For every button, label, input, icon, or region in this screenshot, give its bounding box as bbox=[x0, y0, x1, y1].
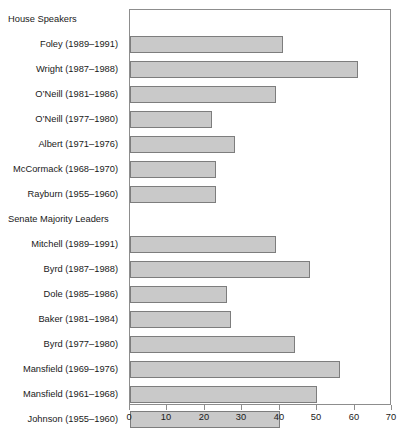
bars-container bbox=[130, 10, 390, 404]
category-label: O’Neill (1981–1986) bbox=[0, 89, 118, 100]
bar bbox=[130, 336, 295, 353]
x-axis-tick-label: 60 bbox=[339, 412, 369, 423]
bar bbox=[130, 261, 310, 278]
group-label-senate-majority-leaders: Senate Majority Leaders bbox=[8, 214, 148, 225]
category-label: Johnson (1955–1960) bbox=[0, 414, 118, 425]
bar bbox=[130, 161, 216, 178]
category-label: Dole (1985–1986) bbox=[0, 289, 118, 300]
bar bbox=[130, 61, 358, 78]
category-label: Wright (1987–1988) bbox=[0, 64, 118, 75]
bar bbox=[130, 186, 216, 203]
bar bbox=[130, 361, 340, 378]
bar bbox=[130, 36, 283, 53]
category-label: Baker (1981–1984) bbox=[0, 314, 118, 325]
bar bbox=[130, 286, 227, 303]
category-label-column: House SpeakersFoley (1989–1991)Wright (1… bbox=[0, 0, 124, 442]
bar bbox=[130, 86, 276, 103]
category-label: Rayburn (1955–1960) bbox=[0, 189, 118, 200]
x-axis-tick-label: 20 bbox=[189, 412, 219, 423]
x-axis-tick bbox=[391, 405, 392, 410]
category-label: Byrd (1977–1980) bbox=[0, 339, 118, 350]
plot-area bbox=[129, 9, 391, 405]
category-label: Albert (1971–1976) bbox=[0, 139, 118, 150]
bar bbox=[130, 311, 231, 328]
x-axis-tick-label: 40 bbox=[264, 412, 294, 423]
x-axis-tick-label: 50 bbox=[301, 412, 331, 423]
x-axis-tick-label: 70 bbox=[376, 412, 406, 423]
category-label: O’Neill (1977–1980) bbox=[0, 114, 118, 125]
x-axis-tick bbox=[354, 405, 355, 410]
x-axis-tick bbox=[204, 405, 205, 410]
x-axis-tick-label: 10 bbox=[151, 412, 181, 423]
category-label: Byrd (1987–1988) bbox=[0, 264, 118, 275]
group-label-house-speakers: House Speakers bbox=[8, 14, 148, 25]
category-label: McCormack (1968–1970) bbox=[0, 164, 118, 175]
x-axis-tick bbox=[279, 405, 280, 410]
x-axis-line bbox=[129, 404, 391, 405]
bar bbox=[130, 111, 212, 128]
category-label: Mansfield (1961–1968) bbox=[0, 389, 118, 400]
category-label: Mitchell (1989–1991) bbox=[0, 239, 118, 250]
category-label: Foley (1989–1991) bbox=[0, 39, 118, 50]
bar bbox=[130, 386, 317, 403]
x-axis-tick bbox=[316, 405, 317, 410]
x-axis-tick bbox=[166, 405, 167, 410]
x-axis-tick bbox=[241, 405, 242, 410]
category-label: Mansfield (1969–1976) bbox=[0, 364, 118, 375]
x-axis-tick-label: 0 bbox=[114, 412, 144, 423]
x-axis-tick-label: 30 bbox=[226, 412, 256, 423]
bar bbox=[130, 236, 276, 253]
bar bbox=[130, 136, 235, 153]
x-axis-tick bbox=[129, 405, 130, 410]
bar-chart: House SpeakersFoley (1989–1991)Wright (1… bbox=[0, 0, 406, 442]
